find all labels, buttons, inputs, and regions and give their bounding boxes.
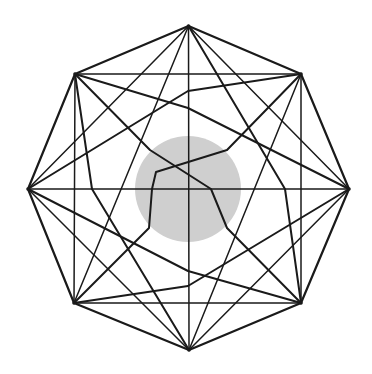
vertex-top-right: [299, 72, 303, 76]
edge-bottom-left-to-left: [28, 189, 74, 303]
vertex-right: [347, 187, 351, 191]
vertex-top-left: [73, 72, 77, 76]
vertex-left: [26, 187, 30, 191]
edge-bottom-to-bottom-left: [74, 303, 189, 350]
vertex-bottom-left: [72, 301, 76, 305]
edge-right-to-bottom-right: [301, 189, 349, 303]
vertex-bottom: [187, 348, 191, 352]
edge-top-to-top-right: [189, 26, 302, 74]
vertex-top: [187, 24, 191, 28]
octagon-graph-diagram: [0, 0, 372, 374]
edge-top-left-to-bottom-left: [74, 74, 75, 303]
edge-left-to-top-left: [28, 74, 75, 189]
vertex-bottom-right: [299, 301, 303, 305]
edges-group: [26, 24, 351, 352]
edge-top-right-to-right: [301, 74, 349, 189]
